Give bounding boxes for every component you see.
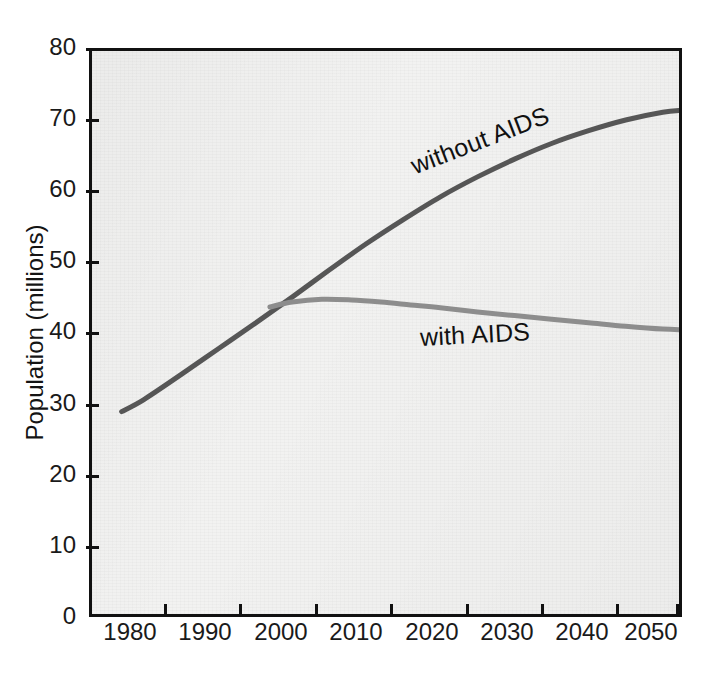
y-tick-10 [86,546,99,549]
x-tick-label-2010-text: 2010 [329,618,382,646]
x-tick-label-2050-text: 2050 [624,618,677,646]
y-tick-label-50-text: 50 [49,246,76,274]
x-tick-label-2020-text: 2020 [405,618,458,646]
x-tick-2030 [541,604,544,617]
plot-area [89,48,682,617]
x-tick-label-1990-text: 1990 [178,618,231,646]
y-tick-label-60-text: 60 [49,175,76,203]
series-curves [92,51,682,617]
x-tick-label-1980-text: 1980 [103,618,156,646]
x-tick-label-2040-text: 2040 [555,618,608,646]
x-tick-2000 [315,604,318,617]
x-tick-1980 [164,604,167,617]
y-tick-50 [86,261,99,264]
y-tick-label-0-text: 0 [63,602,76,630]
y-tick-label-30-text: 30 [49,389,76,417]
x-tick-2040 [616,604,619,617]
curve-without-aids [122,110,682,412]
y-tick-label-40-text: 40 [49,317,76,345]
series-label-with-aids: with AIDS [419,317,531,352]
y-tick-80 [86,48,99,51]
x-tick-label-2030-text: 2030 [480,618,533,646]
y-tick-30 [86,404,99,407]
x-tick-2020 [466,604,469,617]
x-tick-2010 [390,604,393,617]
y-tick-label-80-text: 80 [49,33,76,61]
x-tick-2050 [676,604,679,617]
y-tick-20 [86,475,99,478]
x-tick-1990 [239,604,242,617]
x-tick-label-2000-text: 2000 [254,618,307,646]
population-projection-chart: 80 70 60 50 40 30 20 10 0 1980 1990 2000… [0,0,710,678]
y-tick-40 [86,332,99,335]
y-tick-70 [86,119,99,122]
y-tick-label-20-text: 20 [49,460,76,488]
y-tick-60 [86,190,99,193]
y-axis-title: Population (millions) [18,48,52,617]
y-tick-label-70-text: 70 [49,104,76,132]
y-tick-label-10-text: 10 [49,531,76,559]
